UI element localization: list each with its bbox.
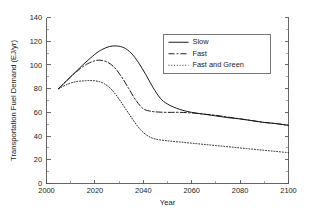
y-tick-label: 140 bbox=[30, 13, 42, 22]
y-tick-label: 20 bbox=[34, 155, 42, 164]
x-tick-label: 2100 bbox=[280, 186, 296, 195]
y-tick-label: 80 bbox=[34, 84, 42, 93]
x-tick-label: 2040 bbox=[135, 186, 151, 195]
y-tick-label: 120 bbox=[30, 37, 42, 46]
chart-legend: SlowFastFast and Green bbox=[164, 35, 271, 74]
chart-container: 0204060801001201402000202020402060208021… bbox=[0, 0, 310, 224]
series-line-fast-and-green bbox=[59, 81, 289, 153]
line-chart: 0204060801001201402000202020402060208021… bbox=[0, 0, 310, 224]
y-tick-label: 60 bbox=[34, 108, 42, 117]
x-axis-title: Year bbox=[160, 198, 176, 207]
x-tick-label: 2000 bbox=[38, 186, 54, 195]
x-tick-label: 2060 bbox=[183, 186, 199, 195]
y-tick-label: 40 bbox=[34, 132, 42, 141]
x-tick-label: 2080 bbox=[232, 186, 248, 195]
legend-label: Slow bbox=[193, 37, 210, 46]
x-tick-label: 2020 bbox=[87, 186, 103, 195]
legend-label: Fast and Green bbox=[193, 60, 244, 69]
y-tick-label: 100 bbox=[30, 61, 42, 70]
legend-label: Fast bbox=[193, 49, 207, 58]
y-axis-title: Transportation Fuel Demand (EJ/yr) bbox=[9, 40, 18, 161]
